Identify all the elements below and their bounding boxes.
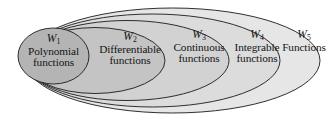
nested-sets-diagram: W1 Polynomial functions W2 Differentiabl…: [0, 0, 334, 124]
ellipse-w1: [18, 28, 89, 84]
venn-ellipses-svg: [0, 0, 334, 124]
